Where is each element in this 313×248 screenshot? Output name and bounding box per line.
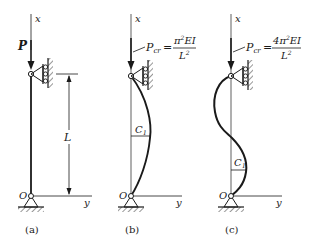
panel-b: x Pcr = π2EI L2 C1 [118, 13, 197, 235]
svg-text:4π2EI: 4π2EI [272, 34, 302, 46]
buckling-figure: x P L y O [0, 0, 313, 248]
leader-line [133, 47, 145, 52]
svg-text:L2: L2 [280, 49, 292, 61]
panel-a: x P L y O [17, 13, 92, 235]
panel-caption: (c) [225, 224, 239, 235]
svg-text:Pcr: Pcr [245, 41, 261, 55]
critical-load-formula: Pcr = 4π2EI L2 [245, 34, 302, 61]
svg-text:L2: L2 [178, 49, 190, 61]
svg-text:Pcr: Pcr [145, 41, 161, 55]
buckled-column [214, 76, 246, 196]
load-arrowhead-icon [228, 61, 235, 70]
load-label: P [17, 39, 28, 53]
panel-c: x Pcr = 4π2EI L2 C1 [214, 13, 302, 235]
svg-text:=: = [163, 41, 172, 54]
deflection-label: C1 [234, 157, 246, 170]
panel-caption: (b) [125, 224, 139, 235]
y-axis-label: y [83, 197, 90, 208]
length-label: L [63, 131, 71, 144]
length-dimension: L [56, 74, 78, 195]
svg-text:π2EI: π2EI [173, 34, 197, 46]
svg-text:=: = [263, 41, 272, 54]
bottom-pin-icon [129, 194, 134, 199]
bottom-pin-icon [229, 194, 234, 199]
bottom-pin-icon [29, 194, 34, 199]
origin-label: O [219, 190, 227, 201]
deflection-label: C1 [135, 124, 147, 137]
origin-label: O [119, 190, 127, 201]
y-axis-label: y [275, 197, 282, 208]
origin-label: O [19, 190, 27, 201]
load-arrowhead-icon [128, 61, 135, 70]
y-axis-label: y [175, 197, 182, 208]
critical-load-formula: Pcr = π2EI L2 [145, 34, 197, 61]
x-axis-label: x [35, 13, 41, 24]
panel-caption: (a) [25, 224, 39, 235]
x-axis-label: x [135, 13, 141, 24]
x-axis-label: x [235, 13, 241, 24]
leader-line [233, 47, 245, 52]
load-arrowhead-icon [28, 61, 35, 70]
